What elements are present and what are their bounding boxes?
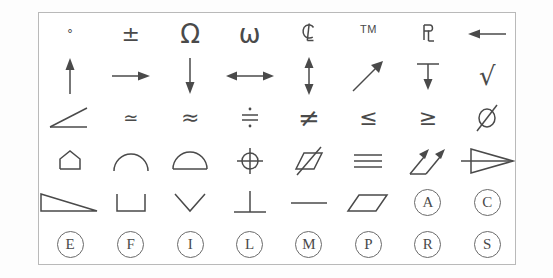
symbol-cell-conical-taper[interactable] (39, 140, 101, 182)
symbol-cell-omega-small[interactable]: ω (220, 13, 279, 55)
symbol-cell-true-position[interactable] (220, 140, 279, 182)
circled-e-icon: E (57, 231, 84, 258)
circled-m-icon: M (295, 231, 322, 258)
arrow-left-right-icon (224, 66, 276, 86)
symbol-cell-circled-e[interactable]: E (39, 224, 101, 266)
symbol-cell-identical-to[interactable] (339, 140, 398, 182)
asymptotically-equal-icon: ≃ (123, 109, 138, 127)
symbol-cell-straightness[interactable] (279, 182, 338, 224)
circled-letter-text: L (245, 237, 254, 252)
arc-icon (109, 147, 153, 175)
symbol-cell-almost-equal[interactable]: ≈ (160, 97, 219, 139)
less-than-or-equal-icon: ≤ (359, 107, 377, 129)
symbol-cell-counterbore[interactable] (101, 182, 160, 224)
arrow-down-icon (180, 56, 200, 96)
degree-icon: ° (67, 28, 73, 40)
countersink-icon (170, 190, 210, 216)
screen: ° ± Ω ω TM (0, 0, 553, 278)
symbol-cell-circled-r[interactable]: R (398, 224, 457, 266)
circled-letter-text: R (423, 237, 433, 252)
circled-l-icon: L (236, 231, 263, 258)
slope-icon (39, 190, 101, 216)
trademark-icon: TM (360, 24, 377, 35)
diameter-icon (472, 101, 502, 135)
symbol-panel: ° ± Ω ω TM (38, 12, 516, 265)
symbol-cell-radical[interactable]: √ (458, 55, 517, 97)
symbol-cell-slope[interactable] (39, 182, 101, 224)
plus-minus-icon: ± (121, 23, 139, 45)
not-equal-icon: ≠ (298, 105, 320, 131)
symbol-cell-arc[interactable] (101, 140, 160, 182)
symbol-cell-asymptotically-equal[interactable]: ≃ (101, 97, 160, 139)
symbol-cell-less-than-or-equal[interactable]: ≤ (339, 97, 398, 139)
symbol-cell-arrow-left-right[interactable] (220, 55, 279, 97)
symbol-cell-circled-c[interactable]: C (458, 182, 517, 224)
circled-r-icon: R (414, 231, 441, 258)
counterbore-icon (111, 190, 151, 216)
symbol-cell-angle[interactable] (39, 97, 101, 139)
flat-taper-icon (459, 145, 515, 177)
symbol-cell-symmetry-slash[interactable] (279, 140, 338, 182)
symbol-cell-circled-a[interactable]: A (398, 182, 457, 224)
circled-letter-text: M (302, 237, 315, 252)
straightness-icon (288, 197, 330, 209)
symbol-cell-arrow-up-down[interactable] (279, 55, 338, 97)
symbol-cell-property-line[interactable] (398, 13, 457, 55)
symbol-cell-circled-m[interactable]: M (279, 224, 338, 266)
circled-p-icon: P (355, 231, 382, 258)
symbol-cell-arrow-left[interactable] (458, 13, 517, 55)
profile-arrows-icon (406, 144, 450, 178)
symbol-cell-arrow-right[interactable] (101, 55, 160, 97)
circled-letter-text: P (364, 237, 372, 252)
symbol-cell-trademark[interactable]: TM (339, 13, 398, 55)
symbol-cell-segment[interactable] (160, 140, 219, 182)
symbol-cell-perpendicular[interactable] (220, 182, 279, 224)
symbol-cell-arrow-down[interactable] (160, 55, 219, 97)
symbol-cell-circled-p[interactable]: P (339, 224, 398, 266)
symbol-cell-omega-capital[interactable]: Ω (160, 13, 219, 55)
arrow-right-icon (110, 66, 152, 86)
symbol-cell-profile-arrows[interactable] (398, 140, 457, 182)
arrow-up-icon (60, 56, 80, 96)
symbol-cell-arrow-up[interactable] (39, 55, 101, 97)
approximately-equal-dotted-icon (238, 103, 262, 133)
property-line-icon (416, 20, 440, 48)
circled-letter-text: C (482, 195, 492, 210)
circled-c-icon: C (474, 189, 501, 216)
circled-a-icon: A (414, 189, 441, 216)
symbol-cell-circled-l[interactable]: L (220, 224, 279, 266)
symbol-cell-diameter[interactable] (458, 97, 517, 139)
parallelogram-icon (345, 190, 391, 216)
circled-letter-text: I (188, 237, 193, 252)
omega-small-icon: ω (239, 21, 261, 47)
symbol-cell-flat-taper[interactable] (458, 140, 517, 182)
symbol-cell-circled-i[interactable]: I (160, 224, 219, 266)
symbol-cell-approximately-equal-dotted[interactable] (220, 97, 279, 139)
almost-equal-icon: ≈ (181, 107, 199, 129)
symbol-cell-arrow-diagonal-up-right[interactable] (339, 55, 398, 97)
symbol-cell-circled-f[interactable]: F (101, 224, 160, 266)
perpendicular-icon (230, 188, 270, 218)
circled-letter-text: F (127, 237, 135, 252)
symbol-cell-depth-arrow-down[interactable] (398, 55, 457, 97)
symbol-cell-circled-s[interactable]: S (458, 224, 517, 266)
circled-s-icon: S (474, 231, 501, 258)
circled-letter-text: A (422, 195, 433, 210)
arrow-left-icon (466, 24, 508, 44)
radical-icon: √ (479, 63, 496, 89)
circled-f-icon: F (117, 231, 144, 258)
symbol-cell-greater-than-or-equal[interactable]: ≥ (398, 97, 457, 139)
arrow-up-down-icon (299, 55, 319, 97)
segment-icon (168, 147, 212, 175)
symbol-cell-countersink[interactable] (160, 182, 219, 224)
conical-taper-icon (55, 147, 85, 175)
symbol-cell-centerline[interactable] (279, 13, 338, 55)
symbol-cell-parallelogram[interactable] (339, 182, 398, 224)
symbol-grid[interactable]: ° ± Ω ω TM (39, 13, 517, 266)
symbol-cell-degree[interactable]: ° (39, 13, 101, 55)
symbol-cell-not-equal[interactable]: ≠ (279, 97, 338, 139)
true-position-icon (234, 145, 266, 177)
depth-arrow-down-icon (414, 58, 442, 94)
symbol-cell-plus-minus[interactable]: ± (101, 13, 160, 55)
identical-to-icon (349, 148, 387, 174)
